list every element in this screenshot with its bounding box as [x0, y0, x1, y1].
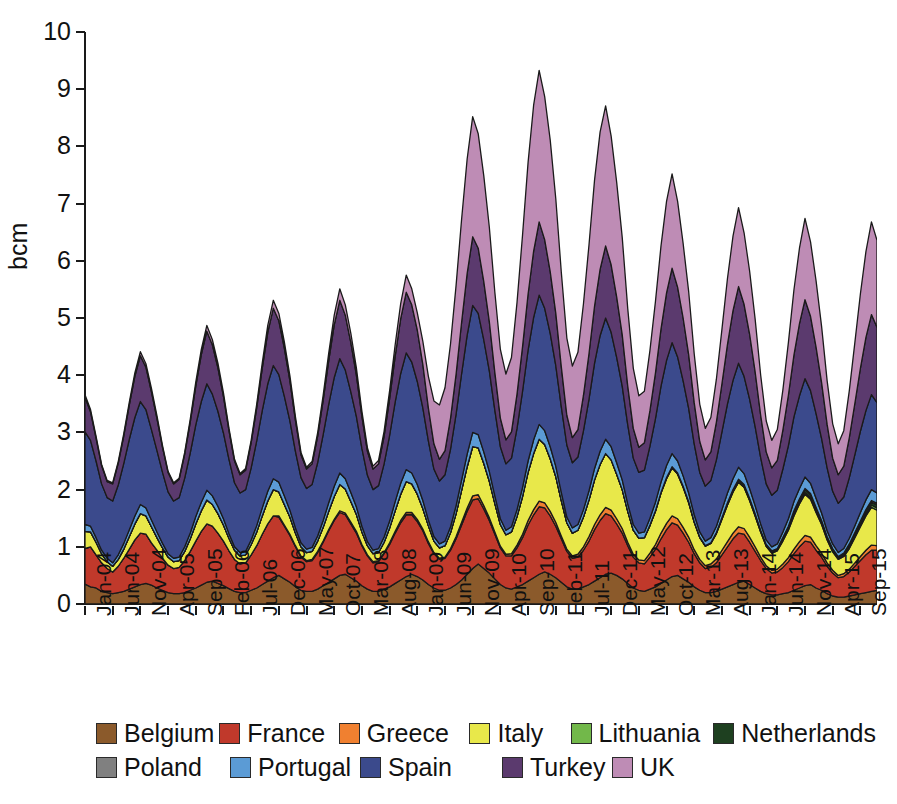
x-tick: [389, 606, 391, 615]
x-tick: [749, 606, 751, 615]
legend-item-italy[interactable]: Italy: [469, 721, 570, 746]
legend: BelgiumFranceGreeceItalyLithuaniaNetherl…: [96, 716, 876, 784]
y-tick-label: 8: [57, 133, 71, 158]
x-tick: [555, 606, 557, 615]
legend-label: Lithuania: [599, 721, 700, 746]
x-tick: [139, 606, 141, 615]
x-tick: [112, 606, 114, 615]
legend-label: Portugal: [258, 755, 351, 780]
legend-swatch-icon: [502, 757, 523, 778]
legend-swatch-icon: [96, 757, 117, 778]
legend-label: Italy: [497, 721, 543, 746]
plot-area: [85, 32, 877, 604]
x-tick: [84, 606, 86, 615]
legend-swatch-icon: [713, 723, 734, 744]
legend-label: Spain: [388, 755, 452, 780]
legend-swatch-icon: [219, 723, 240, 744]
legend-swatch-icon: [571, 723, 592, 744]
y-tick-label: 10: [43, 19, 71, 44]
legend-item-greece[interactable]: Greece: [339, 721, 470, 746]
legend-swatch-icon: [469, 723, 490, 744]
y-tick-label: 6: [57, 248, 71, 273]
x-tick: [416, 606, 418, 615]
y-axis-title: bcm: [6, 223, 31, 270]
legend-label: Turkey: [530, 755, 605, 780]
y-tick-label: 5: [57, 305, 71, 330]
y-tick-label: 3: [57, 419, 71, 444]
legend-item-turkey[interactable]: Turkey: [502, 755, 612, 780]
legend-item-belgium[interactable]: Belgium: [96, 721, 219, 746]
x-tick: [306, 606, 308, 615]
legend-label: Poland: [124, 755, 202, 780]
legend-item-france[interactable]: France: [219, 721, 339, 746]
x-tick-label: Sep-15: [868, 548, 889, 616]
x-tick: [444, 606, 446, 615]
x-tick: [333, 606, 335, 615]
x-tick: [499, 606, 501, 615]
x-tick: [859, 606, 861, 615]
y-tick-label: 2: [57, 477, 71, 502]
x-tick: [610, 606, 612, 615]
x-tick: [693, 606, 695, 615]
chart-root: bcm 012345678910 Jan-04Jun-04Nov-04Apr-0…: [0, 0, 897, 804]
legend-swatch-icon: [339, 723, 360, 744]
legend-item-portugal[interactable]: Portugal: [230, 755, 360, 780]
legend-swatch-icon: [612, 757, 633, 778]
x-tick: [638, 606, 640, 615]
legend-item-spain[interactable]: Spain: [360, 755, 502, 780]
x-tick: [472, 606, 474, 615]
x-tick: [195, 606, 197, 615]
y-tick-label: 0: [57, 591, 71, 616]
legend-item-poland[interactable]: Poland: [96, 755, 230, 780]
x-tick: [666, 606, 668, 615]
legend-label: Greece: [367, 721, 449, 746]
legend-item-lithuania[interactable]: Lithuania: [571, 721, 714, 746]
x-tick: [582, 606, 584, 615]
y-tick-label: 7: [57, 191, 71, 216]
legend-label: Netherlands: [741, 721, 876, 746]
y-tick-label: 9: [57, 76, 71, 101]
x-tick: [250, 606, 252, 615]
legend-swatch-icon: [96, 723, 117, 744]
legend-swatch-icon: [230, 757, 251, 778]
legend-label: UK: [640, 755, 675, 780]
x-tick: [804, 606, 806, 615]
legend-label: France: [247, 721, 325, 746]
legend-item-uk[interactable]: UK: [612, 755, 675, 780]
x-tick: [222, 606, 224, 615]
x-tick: [527, 606, 529, 615]
legend-row: PolandPortugalSpainTurkeyUK: [96, 750, 876, 784]
x-tick: [721, 606, 723, 615]
legend-row: BelgiumFranceGreeceItalyLithuaniaNetherl…: [96, 716, 876, 750]
x-tick: [361, 606, 363, 615]
x-tick: [278, 606, 280, 615]
stacked-area-series: [85, 32, 877, 604]
legend-item-netherlands[interactable]: Netherlands: [713, 721, 876, 746]
y-tick-label: 1: [57, 534, 71, 559]
legend-label: Belgium: [124, 721, 214, 746]
legend-swatch-icon: [360, 757, 381, 778]
x-tick: [776, 606, 778, 615]
x-tick: [832, 606, 834, 615]
y-tick-label: 4: [57, 362, 71, 387]
x-tick: [167, 606, 169, 615]
